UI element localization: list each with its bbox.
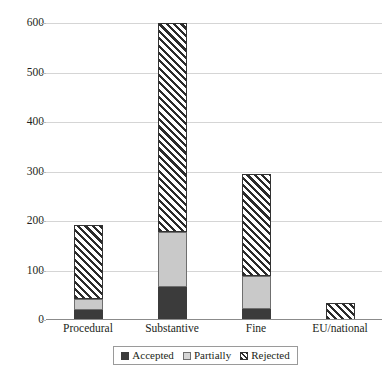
bar-fine[interactable]	[242, 174, 271, 320]
y-axis-tick-label-200: 200	[4, 215, 44, 227]
x-axis-tick-label-substantive: Substantive	[130, 322, 214, 335]
gridline-500	[46, 73, 382, 74]
bar-eu-national[interactable]	[326, 303, 355, 320]
legend-item-accepted[interactable]: Accepted	[121, 350, 174, 361]
legend-swatch-partially-icon	[183, 352, 191, 360]
bar-segment-rejected[interactable]	[242, 174, 271, 276]
y-axis-tick-label-100: 100	[4, 265, 44, 277]
y-axis-tick-label-300: 300	[4, 166, 44, 178]
legend-item-rejected[interactable]: Rejected	[240, 350, 289, 361]
x-axis-tick-label-procedural: Procedural	[46, 322, 130, 335]
legend-item-partially[interactable]: Partially	[183, 350, 231, 361]
gridline-200	[46, 221, 382, 222]
bar-segment-rejected[interactable]	[158, 23, 187, 232]
bar-segment-accepted[interactable]	[158, 287, 187, 320]
bar-segment-partially[interactable]	[242, 276, 271, 309]
bar-substantive[interactable]	[158, 23, 187, 320]
plot-area	[46, 23, 382, 320]
y-axis-tick-label-0: 0	[4, 314, 44, 326]
y-axis-tick-label-400: 400	[4, 116, 44, 128]
gridline-300	[46, 172, 382, 173]
bar-segment-rejected[interactable]	[326, 303, 355, 320]
y-axis-tick-label-600: 600	[4, 17, 44, 29]
legend-swatch-accepted-icon	[121, 352, 129, 360]
legend-label-partially: Partially	[194, 350, 231, 361]
bar-procedural[interactable]	[74, 225, 103, 320]
y-axis-tick-mark-0	[41, 320, 46, 321]
legend-swatch-rejected-icon	[240, 352, 248, 360]
gridline-400	[46, 122, 382, 123]
bar-segment-partially[interactable]	[158, 232, 187, 287]
x-axis-tick-label-fine: Fine	[214, 322, 298, 335]
legend-label-accepted: Accepted	[132, 350, 174, 361]
chart-legend: Accepted Partially Rejected	[113, 346, 298, 365]
x-axis-line	[46, 319, 382, 320]
bar-segment-partially[interactable]	[74, 299, 103, 310]
legend-label-rejected: Rejected	[251, 350, 289, 361]
stacked-bar-chart: 0100200300400500600 ProceduralSubstantiv…	[0, 0, 391, 375]
y-axis-tick-label-500: 500	[4, 67, 44, 79]
chart-title	[0, 0, 391, 2]
gridline-600	[46, 23, 382, 24]
x-axis-tick-label-eu-national: EU/national	[298, 322, 382, 335]
bar-segment-rejected[interactable]	[74, 225, 103, 299]
